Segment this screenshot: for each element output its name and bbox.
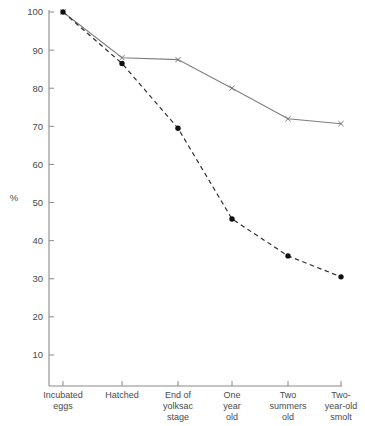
x-tick-label: Incubatedeggs	[43, 390, 83, 411]
x-tick-label: Two-year-oldsmolt	[325, 390, 358, 422]
data-point-marker-dot	[338, 274, 343, 279]
y-tick-label: 100	[27, 6, 43, 17]
y-tick-label: 40	[32, 235, 43, 246]
series-markers-lower	[60, 9, 343, 279]
y-axis-tick-marks	[49, 12, 54, 355]
x-axis-group: IncubatedeggsHatchedEnd ofyolksacstageOn…	[43, 381, 357, 422]
y-tick-label: 80	[32, 83, 43, 94]
y-tick-label: 70	[32, 121, 43, 132]
data-point-marker-dot	[175, 126, 180, 131]
x-tick-label: Hatched	[105, 390, 139, 400]
data-point-marker-cross	[229, 86, 234, 91]
data-point-marker-dot	[285, 253, 290, 258]
y-axis-title: %	[10, 192, 19, 203]
y-axis-tick-labels: 102030405060708090100	[27, 6, 43, 360]
y-tick-label: 90	[32, 45, 43, 56]
data-point-marker-dot	[229, 216, 234, 221]
y-tick-label: 20	[32, 311, 43, 322]
chart-container: 102030405060708090100 % IncubatedeggsHat…	[0, 0, 365, 426]
x-axis-tick-labels: IncubatedeggsHatchedEnd ofyolksacstageOn…	[43, 390, 357, 422]
x-tick-label: End ofyolksacstage	[163, 390, 194, 422]
data-point-marker-dot	[60, 9, 65, 14]
y-tick-label: 50	[32, 197, 43, 208]
series-lines-group	[63, 12, 341, 277]
y-tick-label: 30	[32, 273, 43, 284]
series-line-lower	[63, 12, 341, 277]
data-point-marker-dot	[119, 61, 124, 66]
x-tick-label: Oneyearold	[223, 390, 241, 422]
series-markers-upper	[60, 9, 343, 126]
line-chart-plot: 102030405060708090100 % IncubatedeggsHat…	[0, 0, 365, 426]
y-axis-group: 102030405060708090100 %	[10, 6, 54, 386]
x-axis-tick-marks	[63, 381, 341, 386]
x-tick-label: Twosummersold	[269, 390, 307, 422]
y-tick-label: 60	[32, 159, 43, 170]
series-line-upper	[63, 12, 341, 124]
y-tick-label: 10	[32, 349, 43, 360]
